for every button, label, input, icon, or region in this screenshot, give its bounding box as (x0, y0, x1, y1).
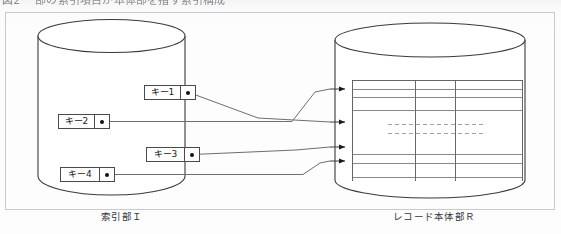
connector-key-3 (193, 147, 330, 155)
key-entry-pointer-cell-3 (184, 148, 199, 161)
connector-key-1 (189, 93, 330, 123)
record-cylinder-body (335, 40, 525, 198)
key-entry-box-2[interactable]: キー2 (58, 114, 110, 129)
record-cylinder-caption: レコード本体部Ｒ (393, 211, 475, 222)
figure-page: 図2 一部の索引項目が本体部を指す索引構成 (0, 0, 561, 234)
pointer-dot-icon (105, 173, 109, 177)
record-cylinder-top (335, 23, 525, 57)
key-entry-label-1: キー1 (145, 86, 180, 99)
pointer-dot-icon (190, 153, 194, 157)
pointer-dot-icon (186, 91, 190, 95)
key-entry-pointer-cell-4 (99, 168, 114, 181)
index-cylinder-top (38, 20, 185, 53)
pointer-dot-icon (100, 120, 104, 124)
key-entry-box-4[interactable]: キー4 (60, 167, 115, 182)
key-entry-pointer-cell-1 (180, 86, 195, 99)
key-entry-box-3[interactable]: キー3 (146, 147, 200, 162)
key-entry-label-4: キー4 (61, 168, 99, 181)
key-entry-pointer-cell-2 (94, 115, 109, 128)
key-entry-label-2: キー2 (59, 115, 94, 128)
key-entry-box-1[interactable]: キー1 (144, 85, 196, 100)
index-cylinder-caption: 索引部Ｉ (101, 211, 142, 222)
key-entry-label-3: キー3 (147, 148, 184, 161)
